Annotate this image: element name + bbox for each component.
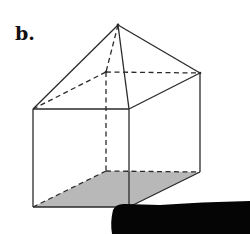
edge-apex-front-left [33,25,118,109]
hidden-edge-top-left [33,72,106,109]
hidden-edge-apex-back-left [106,25,118,72]
pyramid-on-cube-diagram [0,0,250,234]
hidden-edge-top-back [106,72,200,73]
edge-top-right [129,73,200,109]
figure-canvas: b. [0,0,250,234]
edge-apex-front-right [118,25,129,109]
ink-smudge [111,201,250,234]
shaded-base-face [33,171,200,207]
edge-apex-back-right [118,25,200,73]
